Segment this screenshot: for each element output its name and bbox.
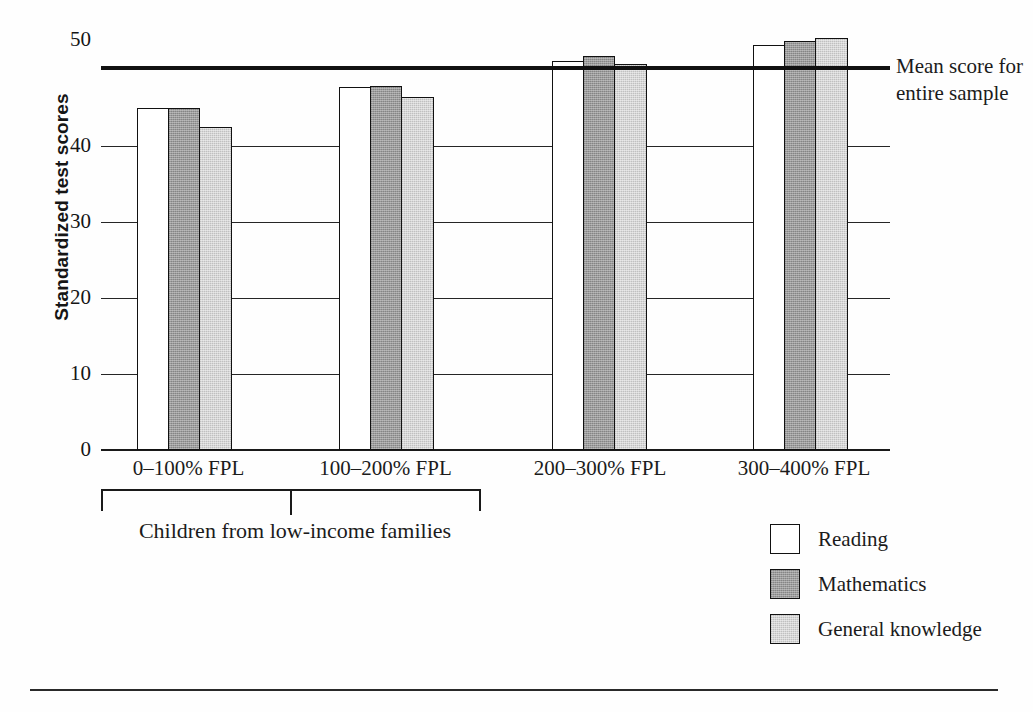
legend-item-reading: Reading (770, 522, 1030, 567)
mean-line-annotation: Mean score for entire sample (896, 53, 1033, 107)
bar-series-group (101, 40, 890, 450)
legend-label-reading: Reading (818, 524, 888, 554)
x-label-200-300: 200–300% FPL (505, 456, 695, 481)
legend-label-general-knowledge: General knowledge (818, 614, 982, 644)
y-tick-0: 0 (31, 439, 91, 460)
mean-reference-line (101, 66, 890, 70)
y-tick-40: 40 (31, 135, 91, 156)
bracket-stem (290, 489, 292, 515)
bar-general-knowledge-100-200 (401, 97, 434, 450)
y-tick-20: 20 (31, 287, 91, 308)
y-tick-10: 10 (31, 363, 91, 384)
legend-label-mathematics: Mathematics (818, 569, 926, 599)
legend-item-general-knowledge: General knowledge (770, 612, 1030, 657)
legend-swatch-mathematics-icon (770, 569, 800, 599)
bracket-right-leg (479, 489, 481, 511)
plot-area (101, 40, 890, 450)
x-axis-tick-labels: 0–100% FPL 100–200% FPL 200–300% FPL 300… (101, 456, 890, 490)
bar-reading-100-200 (339, 87, 371, 450)
bar-general-knowledge-0-100 (199, 127, 232, 450)
bar-mathematics-0-100 (168, 108, 200, 450)
bar-reading-300-400 (753, 45, 785, 450)
x-label-0-100: 0–100% FPL (101, 456, 276, 481)
legend-swatch-general-knowledge-icon (770, 614, 800, 644)
bar-reading-200-300 (552, 61, 584, 450)
bar-chart-figure: Standardized test scores 50 40 30 20 10 … (0, 0, 1033, 712)
low-income-bracket (101, 489, 501, 519)
y-tick-50: 50 (31, 29, 91, 50)
bottom-rule (30, 689, 998, 691)
x-label-100-200: 100–200% FPL (293, 456, 478, 481)
legend-swatch-reading-icon (770, 524, 800, 554)
bracket-caption: Children from low-income families (60, 518, 530, 544)
chart-legend: Reading Mathematics General knowledge (770, 522, 1030, 657)
bar-reading-0-100 (137, 108, 169, 450)
legend-item-mathematics: Mathematics (770, 567, 1030, 612)
x-label-300-400: 300–400% FPL (709, 456, 899, 481)
bar-general-knowledge-200-300 (614, 64, 647, 450)
bar-mathematics-300-400 (784, 41, 816, 450)
bar-mathematics-100-200 (370, 86, 402, 450)
bar-general-knowledge-300-400 (815, 38, 848, 450)
bar-mathematics-200-300 (583, 56, 615, 450)
bracket-left-leg (101, 489, 103, 511)
y-axis-tick-labels: 50 40 30 20 10 0 (31, 40, 91, 460)
y-tick-30: 30 (31, 211, 91, 232)
